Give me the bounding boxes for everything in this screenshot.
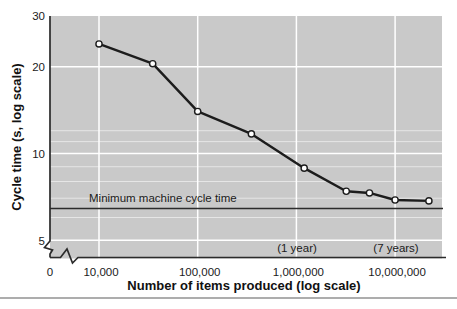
y-tick-labels: 3020105: [32, 10, 45, 246]
x-tick-label: 100,000: [179, 266, 221, 278]
data-point-marker: [96, 41, 102, 47]
min-cycle-time-label: Minimum machine cycle time: [89, 192, 237, 204]
annotation-1-year: (1 year): [277, 242, 317, 254]
x-tick-label: 10,000: [83, 266, 118, 278]
y-axis-title: Cycle time (s, log scale): [9, 63, 24, 210]
y-tick-label: 30: [32, 10, 45, 22]
x-tick-label: 1,000,000: [273, 266, 324, 278]
plot-background: [50, 16, 442, 259]
cycle-time-learning-curve-figure: Cycle time (s, log scale) Number of item…: [0, 0, 457, 309]
data-point-marker: [301, 165, 307, 171]
plot-area: [0, 16, 457, 298]
data-point-marker: [343, 188, 349, 194]
chart-canvas: Cycle time (s, log scale) Number of item…: [0, 0, 457, 309]
x-tick-labels: 10,000100,0001,000,00010,000,000: [83, 266, 425, 278]
y-tick-label: 10: [32, 148, 45, 160]
data-point-marker: [426, 198, 432, 204]
data-point-marker: [195, 108, 201, 114]
y-tick-label: 20: [32, 61, 45, 73]
data-point-marker: [392, 197, 398, 203]
x-tick-label: 10,000,000: [368, 266, 426, 278]
y-tick-label: 5: [39, 235, 45, 247]
annotation-7-years: (7 years): [373, 242, 419, 254]
x-tick-origin-label: 0: [47, 266, 53, 278]
data-point-marker: [366, 190, 372, 196]
data-point-marker: [150, 61, 156, 67]
data-point-marker: [248, 131, 254, 137]
x-axis-title: Number of items produced (log scale): [127, 278, 360, 293]
